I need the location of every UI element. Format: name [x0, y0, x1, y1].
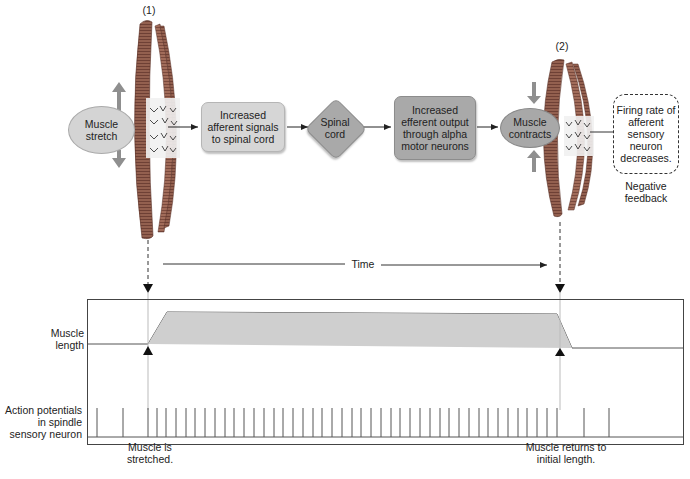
muscle-length-label: Muscle length — [30, 327, 84, 351]
afferent-signals-box: Increased afferent signals to spinal cor… — [201, 102, 285, 152]
spinal-cord-label: Spinal cord — [310, 103, 360, 153]
spinal-cord-node: Spinal cord — [310, 103, 360, 153]
muscle-stretch-node: Muscle stretch — [68, 106, 135, 154]
negative-feedback-label: Negative feedback — [614, 180, 678, 204]
returns-annotation: Muscle returns to initial length. — [518, 441, 614, 465]
stretched-annotation: Muscle is stretched. — [118, 441, 182, 465]
efferent-output-box: Increased efferent output through alpha … — [394, 96, 476, 160]
muscle-contracts-node: Muscle contracts — [500, 108, 560, 148]
time-label: Time — [347, 258, 379, 270]
action-potentials-label: Action potentials in spindle sensory neu… — [0, 404, 82, 440]
graph-frame — [87, 299, 684, 445]
firing-rate-box: Firing rate of afferent sensory neuron d… — [613, 94, 679, 174]
